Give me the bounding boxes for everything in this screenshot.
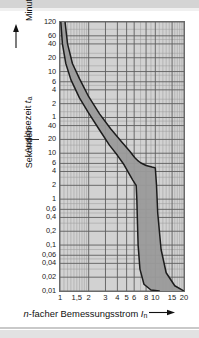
y-tick-label: 40 bbox=[48, 40, 56, 47]
y-tick-label: 0,4 bbox=[46, 214, 56, 221]
y-tick-label: 10 bbox=[48, 68, 56, 75]
y-tick-label: 0,1 bbox=[46, 241, 56, 248]
y-tick-label: 40 bbox=[48, 122, 56, 129]
x-tick-label: 20 bbox=[180, 294, 188, 302]
plot-area: G bbox=[59, 21, 185, 292]
y-tick-label: 2 bbox=[52, 182, 56, 189]
x-tick-label: 8 bbox=[144, 294, 148, 302]
page-bottom-edge-band bbox=[0, 330, 199, 338]
x-tick-label: 1,5 bbox=[72, 294, 83, 302]
x-tick-label: 2 bbox=[87, 294, 91, 302]
x-tick-label: 1 bbox=[58, 294, 62, 302]
y-tick-label: 0,02 bbox=[42, 273, 56, 280]
x-axis-title-subscript: n bbox=[143, 312, 147, 319]
y-tick-label: 120 bbox=[44, 18, 56, 25]
y-axis-tick-labels: 12060402010642140201064210,60,40,20,10,0… bbox=[0, 21, 56, 292]
x-tick-label: 3 bbox=[103, 294, 107, 302]
y-tick-label: 0,01 bbox=[42, 287, 56, 294]
x-axis-title: n-facher Bemessungsstrom In bbox=[0, 308, 199, 319]
x-axis-tick-labels: 11,5234568101520 bbox=[59, 294, 185, 306]
x-axis-title-text: -facher Bemessungsstrom bbox=[29, 308, 138, 319]
plot-graphics bbox=[60, 22, 184, 291]
y-tick-label: 2 bbox=[52, 100, 56, 107]
chart-page: Auslösezeit ta Minuten Sekunden 12060402… bbox=[0, 0, 199, 338]
y-tick-label: 20 bbox=[48, 54, 56, 61]
x-tick-label: 15 bbox=[168, 294, 176, 302]
x-tick-label: 5 bbox=[124, 294, 128, 302]
y-tick-label: 1 bbox=[52, 195, 56, 202]
page-bottom-rule bbox=[0, 327, 199, 329]
y-tick-label: 0,2 bbox=[46, 228, 56, 235]
y-tick-label: 4 bbox=[52, 168, 56, 175]
y-tick-label: 4 bbox=[52, 86, 56, 93]
x-tick-label: 10 bbox=[151, 294, 159, 302]
x-tick-label: 6 bbox=[132, 294, 136, 302]
x-tick-label: 4 bbox=[115, 294, 119, 302]
y-tick-label: 0,04 bbox=[42, 260, 56, 267]
y-tick-label: 20 bbox=[48, 136, 56, 143]
y-tick-label: 10 bbox=[48, 150, 56, 157]
x-axis-arrow-icon bbox=[149, 309, 175, 316]
